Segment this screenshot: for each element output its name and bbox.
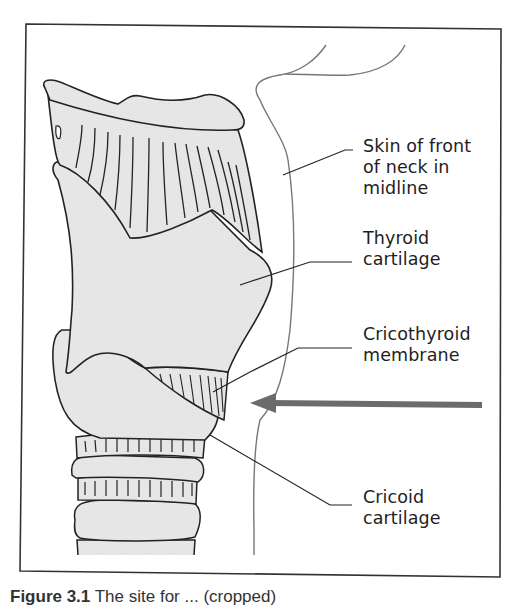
insertion-arrow-icon [250,393,482,413]
label-skin-line2: of neck in [363,157,471,178]
caption-text: The site for ... (cropped) [95,587,276,606]
skin-line [254,45,405,555]
trachea [72,433,205,555]
label-thyroid-line2: cartilage [363,249,441,270]
label-cricoid: Cricoid cartilage [363,487,441,529]
label-cricoid-line2: cartilage [363,508,441,529]
label-thyroid: Thyroid cartilage [363,228,441,270]
figure-caption: Figure 3.1 The site for ... (cropped) [10,587,276,607]
label-cricothyroid-line1: Cricothyroid [363,324,471,345]
foramen [56,126,61,139]
label-cricothyroid: Cricothyroid membrane [363,324,471,366]
label-thyroid-line1: Thyroid [363,228,441,249]
label-skin-line3: midline [363,178,471,199]
label-skin-line1: Skin of front [363,136,471,157]
caption-prefix: Figure 3.1 [10,587,90,606]
label-skin: Skin of front of neck in midline [363,136,471,199]
label-cricothyroid-line2: membrane [363,345,471,366]
label-cricoid-line1: Cricoid [363,487,441,508]
